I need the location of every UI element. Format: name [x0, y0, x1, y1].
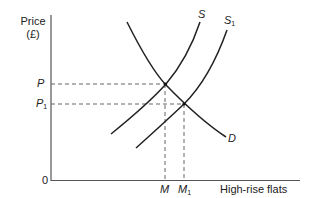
price-label-p1: P1 [36, 98, 47, 110]
supply-curve-s [111, 22, 200, 134]
demand-curve [127, 22, 226, 137]
y-axis-label: Price (£) [20, 16, 46, 40]
curve-d-text: D [228, 132, 236, 144]
y-axis-label-line2: (£) [20, 29, 46, 40]
equilibrium-point-1 [164, 82, 167, 85]
quantity-label-m1: M1 [178, 184, 191, 196]
curve-label-s1: S1 [224, 15, 235, 27]
quantity-m1-text: M [178, 183, 187, 195]
curve-label-d: D [228, 133, 236, 144]
curve-s1-sub: 1 [231, 20, 235, 27]
supply-curve-s1 [136, 30, 227, 148]
curve-s-text: S [198, 8, 205, 20]
origin-label: 0 [42, 175, 48, 186]
price-p-text: P [37, 77, 44, 89]
quantity-m1-sub: 1 [187, 189, 191, 196]
x-axis-label: High-rise flats [220, 184, 287, 195]
equilibrium-point-2 [182, 102, 185, 105]
price-p1-sub: 1 [43, 103, 47, 110]
y-axis-label-line1: Price [20, 16, 46, 27]
origin-text: 0 [42, 174, 48, 186]
quantity-m-text: M [160, 183, 169, 195]
x-axis-label-text: High-rise flats [220, 183, 287, 195]
quantity-label-m: M [160, 184, 169, 195]
curve-label-s: S [198, 9, 205, 20]
price-label-p: P [37, 78, 44, 89]
